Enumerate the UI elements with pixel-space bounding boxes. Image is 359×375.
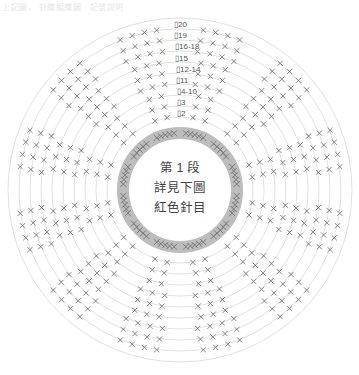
row-label-16-18: ▯16-18	[175, 42, 199, 51]
row-label-4-10: ▯4-10	[177, 87, 197, 96]
row-label-15: ▯15	[175, 54, 188, 63]
center-line-2: 詳見下圖	[130, 178, 230, 198]
center-line-3: 紅色針目	[130, 198, 230, 218]
center-line-1: 第 1 段	[130, 158, 230, 178]
center-label: 第 1 段 詳見下圖 紅色針目	[130, 158, 230, 218]
row-label-2: ▯2	[177, 109, 185, 118]
row-label-11: ▯11	[176, 76, 188, 85]
row-label-20: ▯20	[174, 20, 187, 29]
row-label-12-14: ▯12-14	[176, 65, 200, 74]
row-label-19: ▯19	[174, 31, 187, 40]
row-label-3: ▯3	[177, 98, 185, 107]
